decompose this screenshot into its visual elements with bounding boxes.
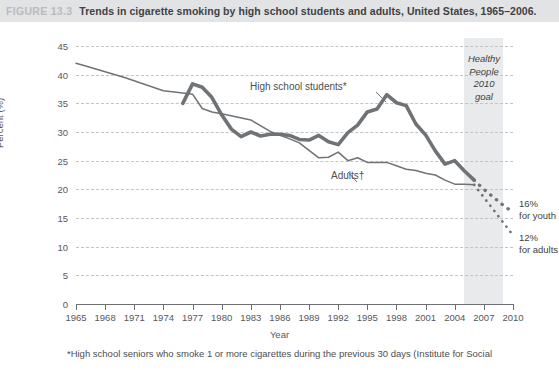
- y-tick-label-15: 15: [46, 213, 68, 224]
- endpoint-youth-caption: for youth: [519, 210, 556, 222]
- x-tick-1968: [105, 304, 106, 310]
- y-tick-label-20: 20: [46, 184, 68, 195]
- x-tick-2004: [455, 304, 456, 310]
- x-tick-1995: [367, 304, 368, 310]
- y-tick-label-5: 5: [46, 270, 68, 281]
- high-school-line: [183, 84, 474, 180]
- endpoint-annotation-adults: 12% for adults: [519, 232, 558, 255]
- x-tick-1977: [193, 304, 194, 310]
- x-tick-1974: [163, 304, 164, 310]
- goal-label-line-3: 2010: [448, 78, 520, 91]
- y-tick-label-10: 10: [46, 241, 68, 252]
- figure-number: FIGURE 13.3: [6, 5, 72, 17]
- x-tick-label-1989: 1989: [298, 312, 319, 323]
- y-tick-label-0: 0: [46, 299, 68, 310]
- x-tick-1989: [309, 304, 310, 310]
- y-tick-label-30: 30: [46, 127, 68, 138]
- x-tick-label-1995: 1995: [357, 312, 378, 323]
- healthy-people-goal-label: Healthy People 2010 goal: [448, 53, 520, 103]
- x-tick-label-1992: 1992: [328, 312, 349, 323]
- endpoint-annotation-youth: 16% for youth: [519, 198, 556, 221]
- page-title: Trends in cigarette smoking by high scho…: [79, 5, 536, 17]
- x-tick-2001: [426, 304, 427, 310]
- series-high-school: [183, 84, 513, 212]
- x-tick-label-1998: 1998: [386, 312, 407, 323]
- x-tick-label-1983: 1983: [240, 312, 261, 323]
- x-tick-label-1968: 1968: [95, 312, 116, 323]
- x-tick-2007: [484, 304, 485, 310]
- high-school-projection-dotted-line: [474, 180, 513, 212]
- x-tick-label-2010: 2010: [502, 312, 523, 323]
- endpoint-adults-caption: for adults: [519, 244, 558, 256]
- x-tick-label-1971: 1971: [124, 312, 145, 323]
- x-tick-label-2001: 2001: [415, 312, 436, 323]
- x-tick-label-2004: 2004: [444, 312, 465, 323]
- x-tick-1986: [280, 304, 281, 310]
- x-tick-1983: [251, 304, 252, 310]
- figure-container: FIGURE 13.3 Trends in cigarette smoking …: [0, 0, 559, 370]
- series-label-high-school: High school students*: [250, 81, 347, 92]
- x-tick-1992: [338, 304, 339, 310]
- x-tick-label-1965: 1965: [65, 312, 86, 323]
- x-tick-1971: [134, 304, 135, 310]
- x-tick-1998: [396, 304, 397, 310]
- x-tick-1980: [222, 304, 223, 310]
- x-tick-2010: [513, 304, 514, 310]
- goal-label-line-4: goal: [448, 91, 520, 104]
- figure-title-bar: FIGURE 13.3 Trends in cigarette smoking …: [0, 0, 559, 22]
- x-tick-label-1986: 1986: [269, 312, 290, 323]
- endpoint-youth-value: 16%: [519, 198, 556, 210]
- goal-label-line-1: Healthy: [448, 53, 520, 66]
- y-tick-label-35: 35: [46, 98, 68, 109]
- x-tick-1965: [76, 304, 77, 310]
- x-tick-label-1980: 1980: [211, 312, 232, 323]
- x-tick-label-1977: 1977: [182, 312, 203, 323]
- y-axis-title: Percent (%): [0, 98, 5, 148]
- x-tick-label-2007: 2007: [473, 312, 494, 323]
- series-label-adults: Adults†: [331, 170, 364, 181]
- y-tick-label-25: 25: [46, 155, 68, 166]
- x-axis-line: [76, 304, 513, 305]
- goal-label-line-2: People: [448, 66, 520, 79]
- x-axis-title: Year: [0, 329, 559, 340]
- y-tick-label-40: 40: [46, 69, 68, 80]
- x-tick-label-1974: 1974: [153, 312, 174, 323]
- figure-footnote: *High school seniors who smoke 1 or more…: [0, 348, 559, 359]
- endpoint-adults-value: 12%: [519, 232, 558, 244]
- y-tick-label-45: 45: [46, 41, 68, 52]
